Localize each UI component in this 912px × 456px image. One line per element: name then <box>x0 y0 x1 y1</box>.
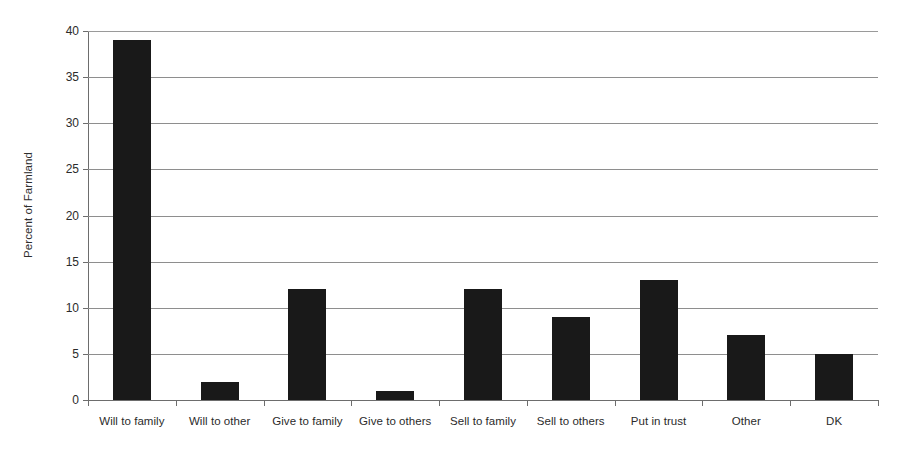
x-tick-label: Put in trust <box>631 415 687 427</box>
y-tick-label: 30 <box>66 116 79 130</box>
plot-area: 0510152025303540 <box>88 31 878 400</box>
x-tick-mark <box>790 400 791 406</box>
bar <box>815 354 853 400</box>
gridline <box>88 123 878 124</box>
y-tick-label: 25 <box>66 162 79 176</box>
y-tick-label: 15 <box>66 255 79 269</box>
gridline <box>88 262 878 263</box>
x-tick-label: Sell to family <box>450 415 516 427</box>
x-tick-label: Will to family <box>99 415 164 427</box>
y-tick-label: 40 <box>66 24 79 38</box>
x-tick-label: Give to others <box>359 415 431 427</box>
x-tick-label: Will to other <box>189 415 250 427</box>
x-tick-label: Sell to others <box>537 415 605 427</box>
y-tick-mark <box>83 216 88 217</box>
bar <box>288 289 326 400</box>
x-tick-mark <box>702 400 703 406</box>
x-tick-mark <box>351 400 352 406</box>
y-tick-label: 20 <box>66 209 79 223</box>
y-tick-label: 10 <box>66 301 79 315</box>
x-tick-mark <box>527 400 528 406</box>
gridline <box>88 31 878 32</box>
y-tick-label: 35 <box>66 70 79 84</box>
x-tick-label: DK <box>826 415 842 427</box>
bar <box>640 280 678 400</box>
y-tick-label: 0 <box>72 393 79 407</box>
x-tick-mark <box>615 400 616 406</box>
y-tick-mark <box>83 77 88 78</box>
x-tick-mark <box>88 400 89 406</box>
x-tick-mark <box>176 400 177 406</box>
x-tick-mark <box>439 400 440 406</box>
bar <box>376 391 414 400</box>
gridline <box>88 216 878 217</box>
y-tick-mark <box>83 354 88 355</box>
bar <box>113 40 151 400</box>
x-axis-line <box>88 400 879 401</box>
x-tick-label: Other <box>732 415 761 427</box>
gridline <box>88 169 878 170</box>
y-tick-mark <box>83 123 88 124</box>
gridline <box>88 77 878 78</box>
x-tick-mark <box>878 400 879 406</box>
bar <box>201 382 239 400</box>
y-tick-label: 5 <box>72 347 79 361</box>
y-tick-mark <box>83 31 88 32</box>
bar <box>464 289 502 400</box>
x-tick-mark <box>264 400 265 406</box>
y-tick-mark <box>83 262 88 263</box>
bar-chart: Percent of Farmland 0510152025303540 Wil… <box>0 0 912 456</box>
bar <box>552 317 590 400</box>
y-axis-title: Percent of Farmland <box>22 125 40 285</box>
y-tick-mark <box>83 308 88 309</box>
bar <box>727 335 765 400</box>
y-tick-mark <box>83 169 88 170</box>
x-tick-label: Give to family <box>272 415 342 427</box>
